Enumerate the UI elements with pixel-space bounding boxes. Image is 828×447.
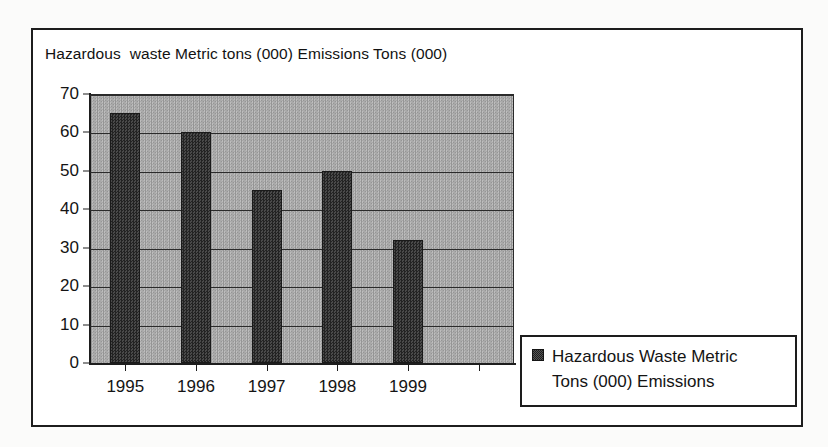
gridline <box>90 210 513 211</box>
y-axis-tick-label: 10 <box>60 315 79 335</box>
x-axis-line <box>89 363 516 365</box>
y-axis-tick-mark <box>83 286 90 287</box>
gridline <box>90 133 513 134</box>
y-axis-labels: 706050403020100 <box>33 30 79 425</box>
chart-frame: Hazardous waste Metric tons (000) Emissi… <box>31 28 803 427</box>
y-axis-tick-mark <box>83 363 90 364</box>
x-axis-tick-mark <box>337 363 338 371</box>
gridline <box>90 249 513 250</box>
legend-entry: Hazardous Waste Metric Tons (000) Emissi… <box>532 344 785 394</box>
y-axis-tick-label: 30 <box>60 238 79 258</box>
x-axis-tick-mark <box>267 363 268 371</box>
gridline <box>90 95 513 96</box>
x-axis-tick-mark <box>479 363 480 371</box>
x-axis-tick-mark <box>408 363 409 371</box>
y-axis-tick-label: 40 <box>60 199 79 219</box>
scanned-page: Hazardous waste Metric tons (000) Emissi… <box>0 0 828 447</box>
bar <box>110 113 140 363</box>
chart-legend: Hazardous Waste Metric Tons (000) Emissi… <box>520 335 797 407</box>
x-axis-tick-mark <box>125 363 126 371</box>
x-axis-tick-label: 1996 <box>177 377 215 397</box>
y-axis-tick-mark <box>83 94 90 95</box>
x-axis-tick-label: 1999 <box>389 377 427 397</box>
bar <box>322 171 352 363</box>
bar <box>393 240 423 363</box>
y-axis-tick-mark <box>83 132 90 133</box>
legend-swatch-icon <box>532 349 544 361</box>
y-axis-tick-label: 50 <box>60 161 79 181</box>
chart-title: Hazardous waste Metric tons (000) Emissi… <box>45 45 447 63</box>
x-axis-tick-label: 1998 <box>318 377 356 397</box>
bar <box>252 190 282 363</box>
y-axis-tick-label: 60 <box>60 122 79 142</box>
bar <box>181 132 211 363</box>
gridline <box>90 172 513 173</box>
y-axis-tick-label: 0 <box>70 353 79 373</box>
y-axis-tick-label: 70 <box>60 84 79 104</box>
gridline <box>90 326 513 327</box>
gridline <box>90 287 513 288</box>
y-axis-tick-mark <box>83 324 90 325</box>
legend-label: Hazardous Waste Metric Tons (000) Emissi… <box>552 344 737 394</box>
y-axis-tick-mark <box>83 247 90 248</box>
x-axis-tick-label: 1995 <box>106 377 144 397</box>
x-axis-tick-mark <box>196 363 197 371</box>
y-axis-tick-label: 20 <box>60 276 79 296</box>
plot-area <box>90 94 514 363</box>
y-axis-tick-mark <box>83 209 90 210</box>
x-axis-tick-label: 1997 <box>248 377 286 397</box>
y-axis-tick-mark <box>83 170 90 171</box>
